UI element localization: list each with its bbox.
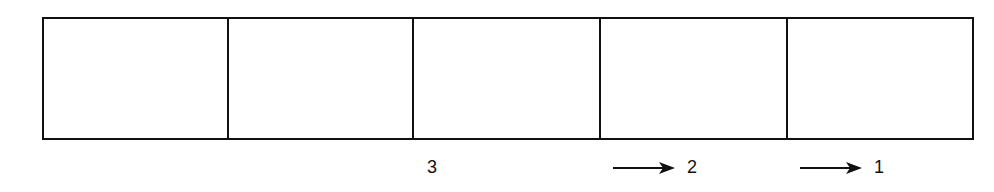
label-one: 1 [800, 156, 884, 178]
label-two: 2 [613, 156, 697, 178]
cell-strip [42, 17, 974, 140]
cell-4 [601, 19, 788, 138]
cell-3 [414, 19, 601, 138]
cell-2 [229, 19, 414, 138]
right-arrow-icon [800, 160, 862, 174]
label-one-text: 1 [874, 158, 884, 176]
label-three: 3 [427, 156, 437, 178]
cell-5 [788, 19, 972, 138]
cell-1 [44, 19, 229, 138]
right-arrow-icon [613, 160, 675, 174]
label-three-text: 3 [427, 158, 437, 176]
label-two-text: 2 [687, 158, 697, 176]
